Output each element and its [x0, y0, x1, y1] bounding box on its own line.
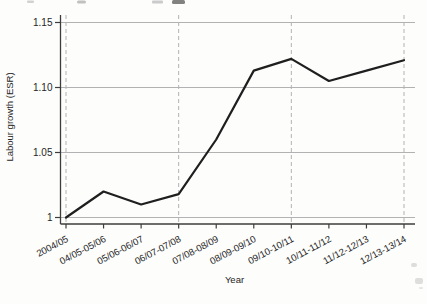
scan-artifact: [172, 0, 185, 4]
y-tick-label: 1.05: [33, 147, 53, 158]
scan-artifact: [77, 1, 86, 4]
y-tick-label: 1.10: [33, 82, 53, 93]
scan-artifact: [415, 278, 423, 284]
chart-root: 11.051.101.152004/0504/05-05/0605/06-06/…: [4, 15, 415, 285]
figure-page: 11.051.101.152004/0504/05-05/0605/06-06/…: [0, 0, 427, 304]
scan-artifact: [411, 263, 417, 267]
y-axis-title: Labour growth (ESR): [4, 72, 15, 161]
labour-growth-line: [66, 59, 404, 218]
scan-artifact: [419, 287, 423, 289]
line-chart: 11.051.101.152004/0504/05-05/0605/06-06/…: [0, 0, 427, 304]
x-axis-title: Year: [225, 274, 244, 285]
y-tick-label: 1: [47, 212, 53, 223]
y-tick-label: 1.15: [33, 17, 53, 28]
scan-artifact: [27, 1, 34, 4]
scan-artifact: [152, 1, 163, 4]
